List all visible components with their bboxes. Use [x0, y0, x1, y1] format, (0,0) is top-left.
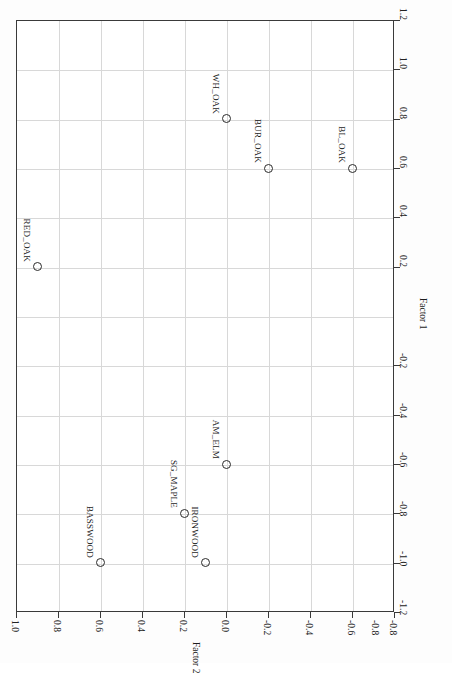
axis-ticklabel-factor2: 1.0: [10, 620, 20, 632]
data-point-label: SG_MAPLE: [169, 460, 179, 508]
data-point-label: BUR_OAK: [253, 119, 263, 163]
axis-ticklabel-factor1: -0.2: [398, 353, 408, 368]
axis-tick-factor2: [16, 612, 17, 618]
data-point-label: BL_OAK: [337, 126, 347, 163]
axis-ticklabel-factor1: 1.0: [398, 57, 408, 69]
gridline-vertical: [269, 21, 270, 611]
data-point-marker[interactable]: [264, 164, 273, 173]
gridline-horizontal: [17, 268, 393, 269]
gridline-vertical: [143, 21, 144, 611]
gridline-horizontal: [17, 218, 393, 219]
axis-tick-factor2: [100, 612, 101, 618]
axis-ticklabel-factor1: -1.2: [398, 600, 408, 615]
axis-tick-factor1: [394, 217, 400, 218]
axis-ticklabel-factor1: 0.8: [398, 107, 408, 119]
axis-tick-factor2: [58, 612, 59, 618]
axis-ticklabel-factor1: -0.8: [398, 501, 408, 516]
axis-ticklabel-factor2: 0.4: [136, 620, 146, 632]
gridline-horizontal: [17, 70, 393, 71]
data-point-label: IRONWOOD: [190, 506, 200, 558]
axis-ticklabel-factor2: -0.6: [346, 620, 356, 635]
axis-ticklabel-factor2-corner: -0.8: [370, 620, 380, 635]
gridline-horizontal: [17, 169, 393, 170]
axis-title-factor2: Factor 2: [191, 642, 201, 673]
axis-tick-factor2: [268, 612, 269, 618]
axis-ticklabel-factor2: 0.2: [178, 620, 188, 632]
data-point-label: AM_ELM: [211, 420, 221, 459]
axis-ticklabel-factor1: 0.2: [398, 255, 408, 267]
data-point-label: RED_OAK: [22, 218, 32, 261]
gridline-horizontal: [17, 514, 393, 515]
axis-ticklabel-factor1: -0.6: [398, 452, 408, 467]
plot-area: [16, 20, 394, 612]
axis-tick-factor2: [184, 612, 185, 618]
data-point-marker[interactable]: [180, 509, 189, 518]
axis-ticklabel-factor1: 1.2: [398, 8, 408, 20]
data-point-marker[interactable]: [33, 262, 42, 271]
gridline-vertical: [311, 21, 312, 611]
axis-ticklabel-factor1: -0.4: [398, 403, 408, 418]
axis-title-factor1: Factor 1: [418, 298, 428, 329]
gridline-vertical: [353, 21, 354, 611]
gridline-horizontal: [17, 416, 393, 417]
data-point-marker[interactable]: [222, 460, 231, 469]
axis-ticklabel-factor1: 0.4: [398, 205, 408, 217]
axis-ticklabel-factor2: 0.6: [94, 620, 104, 632]
axis-ticklabel-factor2: 0.8: [52, 620, 62, 632]
gridline-horizontal: [17, 120, 393, 121]
gridline-horizontal: [17, 465, 393, 466]
gridline-vertical: [59, 21, 60, 611]
data-point-marker[interactable]: [222, 114, 231, 123]
axis-ticklabel-factor1: 0.6: [398, 156, 408, 168]
gridline-horizontal: [17, 317, 393, 318]
axis-ticklabel-factor2: -0.4: [304, 620, 314, 635]
data-point-label: WH_OAK: [211, 73, 221, 113]
data-point-marker[interactable]: [96, 558, 105, 567]
axis-tick-factor2: [310, 612, 311, 618]
gridline-horizontal: [17, 366, 393, 367]
gridline-vertical: [185, 21, 186, 611]
axis-ticklabel-factor2: 0.0: [220, 620, 230, 632]
axis-tick-factor2: [352, 612, 353, 618]
axis-ticklabel-factor2: -0.2: [262, 620, 272, 635]
data-point-marker[interactable]: [201, 558, 210, 567]
gridline-vertical: [227, 21, 228, 611]
data-point-marker[interactable]: [348, 164, 357, 173]
axis-tick-factor2: [142, 612, 143, 618]
axis-ticklabel-factor2: -0.8: [388, 620, 398, 635]
data-point-label: BASSWOOD: [85, 506, 95, 558]
axis-tick-factor2: [226, 612, 227, 618]
gridline-vertical: [101, 21, 102, 611]
axis-tick-factor1: [394, 69, 400, 70]
axis-ticklabel-factor1: -1.0: [398, 551, 408, 566]
